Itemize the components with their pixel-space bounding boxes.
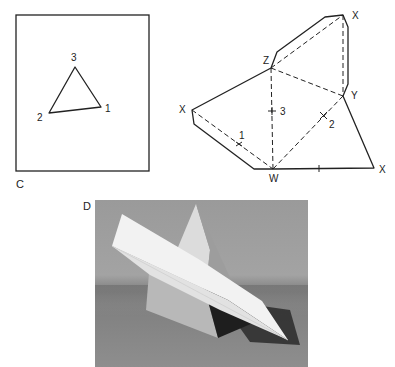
edge-label-2: 2 [329,119,335,130]
label-x-top: X [352,10,359,21]
figure-canvas: 3 2 1 C Z X Y X W [0,0,395,367]
label-y: Y [351,90,358,101]
panel-d-photo [95,200,308,367]
net-outline [192,15,374,169]
vertex-label-1: 1 [105,103,111,114]
label-z: Z [263,55,269,66]
panel-d-letter: D [83,200,91,212]
label-x-right: X [379,164,386,175]
vertex-label-3: 3 [71,52,77,63]
label-w: W [269,173,279,184]
vertex-label-2: 2 [37,112,43,123]
label-x-left: X [179,104,186,115]
fold-lines [192,15,343,169]
panel-c-frame [16,15,149,171]
edge-label-3: 3 [280,106,286,117]
net-diagram [192,15,374,172]
panel-c: 3 2 1 C [16,15,149,190]
triangle-123 [49,67,101,113]
edge-label-1: 1 [239,130,245,141]
net-labels: Z X Y X W X 3 2 1 [179,10,386,184]
panel-c-letter: C [16,178,24,190]
